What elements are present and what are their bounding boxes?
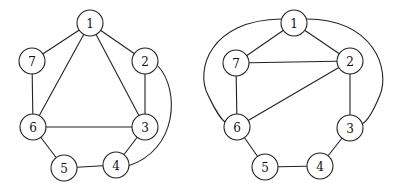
right-graph: 1234567 [204,10,383,180]
graph-diagram: 1234567 1234567 [0,0,398,189]
node-7: 7 [223,50,249,76]
node-label: 3 [346,122,354,136]
node-label: 5 [261,161,269,175]
node-5: 5 [51,155,77,181]
node-1: 1 [77,10,103,36]
node-6: 6 [20,114,46,140]
node-label: 7 [232,57,240,71]
edge-7-2 [236,61,350,63]
node-label: 2 [346,55,354,69]
node-label: 1 [290,17,298,31]
node-label: 7 [28,55,36,69]
edge-1-3 [90,23,145,127]
node-3: 3 [132,114,158,140]
node-5: 5 [252,154,278,180]
node-7: 7 [19,48,45,74]
edge-1-6 [33,23,90,127]
node-label: 2 [141,55,149,69]
node-label: 6 [29,121,37,135]
node-label: 6 [233,121,241,135]
node-4: 4 [103,152,129,178]
node-label: 3 [141,121,149,135]
node-2: 2 [337,48,363,74]
node-3: 3 [337,115,363,141]
left-graph: 1234567 [19,10,171,181]
node-label: 4 [112,159,120,173]
node-1: 1 [281,10,307,36]
edge-6-2 [237,61,350,127]
node-label: 4 [316,160,324,174]
node-2: 2 [132,48,158,74]
node-label: 1 [86,17,94,31]
node-label: 5 [60,162,68,176]
node-6: 6 [224,114,250,140]
node-4: 4 [307,153,333,179]
